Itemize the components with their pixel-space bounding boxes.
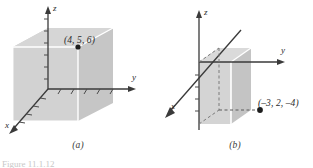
figure-container: z y x (4, 5, 6) (a) — [0, 0, 313, 168]
panel-a-diagram — [0, 0, 156, 140]
box-front-face — [13, 47, 78, 121]
z-axis-label-a: z — [53, 3, 57, 13]
z-axis-arrowhead-b — [196, 10, 202, 18]
panel-b: z y x (b) — [157, 0, 313, 168]
x-axis-arrowhead — [9, 125, 18, 134]
x-axis-label-a: x — [5, 120, 9, 130]
panel-a: z y x (4, 5, 6) (a) — [0, 0, 156, 168]
cut-off-caption-strip: Figure 11.1.12 — [0, 160, 313, 168]
y-axis-arrowhead — [128, 86, 136, 92]
plotted-point-a — [75, 44, 80, 49]
x-axis-label-b: x — [171, 101, 175, 111]
y-axis-label-a: y — [132, 72, 136, 82]
z-axis-label-b: z — [204, 7, 208, 17]
panel-b-diagram — [157, 0, 313, 140]
point-label-a: (4, 5, 6) — [64, 35, 95, 45]
y-axis-label-b: y — [281, 45, 285, 55]
cut-off-caption-text: Figure 11.1.12 — [2, 160, 54, 168]
panel-a-caption: (a) — [0, 140, 156, 150]
y-axis-arrowhead-b — [277, 59, 285, 65]
z-axis-arrowhead — [45, 6, 51, 14]
x-tick — [19, 122, 25, 123]
box-b-front-face — [199, 62, 231, 124]
panel-b-caption: (b) — [157, 140, 313, 150]
point-label-b: (–3, 2, –4) — [258, 98, 299, 108]
